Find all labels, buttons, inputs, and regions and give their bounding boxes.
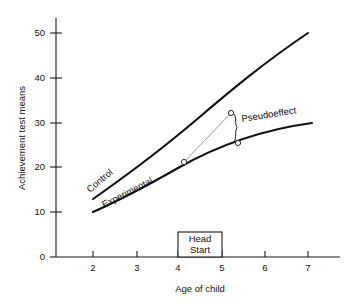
x-tick-label-6: 6 (262, 262, 267, 273)
x-tick-label-4: 4 (175, 262, 180, 273)
y-tick-label-20: 20 (34, 161, 45, 172)
y-axis-title: Achievement test means (16, 86, 27, 190)
x-tick-label-5: 5 (219, 262, 224, 273)
x-tick-label-3: 3 (134, 262, 139, 273)
y-tick-label-40: 40 (34, 72, 45, 83)
pseudoeffect-connector-line (184, 113, 231, 162)
projected-point-marker (228, 110, 233, 115)
posttest-point-marker (235, 140, 240, 145)
y-tick-label-0: 0 (40, 251, 45, 262)
y-tick-label-50: 50 (34, 27, 45, 38)
control-curve-label: Control (84, 166, 115, 194)
x-tick-label-7: 7 (305, 262, 310, 273)
y-tick-label-10: 10 (34, 206, 45, 217)
axes-group (56, 18, 340, 257)
x-tick-label-2: 2 (90, 262, 95, 273)
pseudoeffect-label: Pseudoeffect (241, 104, 298, 124)
x-axis-title: Age of child (175, 283, 225, 294)
head-start-box: Head Start (178, 232, 222, 257)
pseudoeffect-bracket (234, 114, 237, 142)
head-start-label-line1: Head (189, 233, 212, 244)
pretest-point-marker (181, 159, 186, 164)
chart-figure: 0 10 20 30 40 50 2 3 4 5 6 7 Age of chil… (0, 0, 350, 304)
pseudoeffect-markers (181, 110, 240, 164)
achievement-test-line-chart: 0 10 20 30 40 50 2 3 4 5 6 7 Age of chil… (0, 0, 350, 304)
y-tick-label-30: 30 (34, 117, 45, 128)
head-start-label-line2: Start (190, 244, 210, 255)
y-axis-ticks: 0 10 20 30 40 50 (34, 27, 62, 262)
